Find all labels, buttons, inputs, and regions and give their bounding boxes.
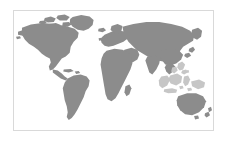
world-map-svg bbox=[14, 11, 213, 130]
screenshot-root bbox=[0, 0, 228, 143]
world-map-frame bbox=[13, 10, 214, 131]
